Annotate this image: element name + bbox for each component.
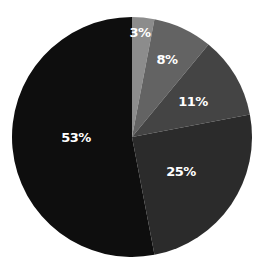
pie-chart: 3% 8% 11% 25% 53% bbox=[0, 0, 266, 275]
slice-label-11: 11% bbox=[178, 94, 208, 109]
slice-label-3: 3% bbox=[130, 25, 151, 40]
slice-label-8: 8% bbox=[157, 52, 178, 67]
slice-label-25: 25% bbox=[166, 164, 196, 179]
pie-slices bbox=[12, 17, 252, 257]
slice-label-53: 53% bbox=[61, 130, 91, 145]
